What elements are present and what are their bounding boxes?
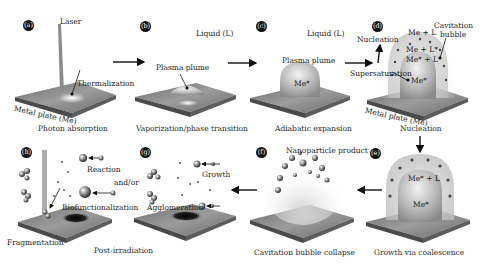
panel-badge-e: (e) [370,148,381,159]
label-liquid-c: Liquid (L) [307,29,344,38]
caption-c: Adiabatic expansion [275,124,352,133]
label-cavitation: Cavitation [434,21,473,30]
label-me-lstar: Me + L* [406,45,438,54]
label-nanoparticle-product: Nanoparticle product [286,146,368,155]
plate-h [18,150,112,243]
label-mestar-lstar: Me* + L* [406,55,442,64]
label-me-l: Me + L [408,28,436,37]
label-me-star-d: Me* [411,76,427,85]
label-me-star-e: Me* [413,200,429,209]
label-biofunctionalization: Biofunctionalization [62,203,138,212]
label-agglomeration: Agglomeration [147,203,203,212]
caption-h: Post-irradiation [94,246,153,255]
label-nucleation-arrow: Nucleation [357,35,399,44]
label-mestar-l: Me* + L [408,174,440,183]
panel-badge-a: (a) [23,20,34,31]
label-laser: Laser [60,17,81,26]
plate-e [366,154,470,243]
label-plasma-plume-c: Plasma plume [282,56,335,65]
label-bubble: bubble [440,30,466,39]
caption-e: Growth via coalescence [374,248,464,257]
panel-badge-h: (h) [21,147,32,158]
caption-d: Nucleation [400,124,442,133]
label-liquid-b: Liquid (L) [196,29,233,38]
panel-badge-d: (d) [372,21,383,32]
panel-badge-g: (g) [140,147,151,158]
label-growth: Growth [202,170,230,179]
label-reaction: Reaction [87,165,121,174]
panel-badge-b: (b) [140,21,151,32]
panel-badge-f: (f) [256,147,267,158]
laser-beam [58,24,64,92]
caption-f: Cavitation bubble collapse [254,248,355,257]
label-me-star-c: Me* [294,79,310,88]
caption-b: Vaporization/phase transition [136,124,248,133]
plate-f [250,155,354,243]
label-and-or: and/or [114,178,139,187]
label-plasma-plume-b: Plasma plume [156,63,209,72]
plate-c [250,62,350,118]
panel-badge-c: (c) [256,21,267,32]
label-supersaturation: Supersaturation [350,69,412,78]
label-fragmentation: Fragmentation [7,238,64,247]
label-thermalization: Thermalization [77,79,134,88]
caption-a: Photon absorption [38,124,108,133]
